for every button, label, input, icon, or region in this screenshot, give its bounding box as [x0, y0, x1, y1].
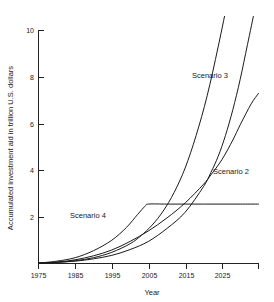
series-label-scenario-3: Scenario 3 [192, 71, 228, 80]
x-tick-label-1995: 1995 [105, 272, 121, 279]
series-label-scenario-2: Scenario 2 [213, 167, 249, 176]
x-axis-tick-labels: 1975 1985 1995 2005 2015 2025 [31, 272, 231, 279]
y-tick-label-10: 10 [26, 27, 34, 34]
x-tick-label-1975: 1975 [31, 272, 47, 279]
y-axis-ticks [39, 31, 45, 218]
chart-canvas: 10 8 6 4 2 1975 1985 1995 2005 2015 2025… [0, 0, 274, 302]
y-axis-title: Accumulated investment aid in trillion U… [6, 66, 15, 230]
x-axis-title: Year [144, 288, 160, 297]
series-path-scenario-3 [39, 0, 241, 263]
x-tick-label-2005: 2005 [142, 272, 158, 279]
y-tick-label-4: 4 [30, 167, 34, 174]
chart-figure: 10 8 6 4 2 1975 1985 1995 2005 2015 2025… [0, 0, 274, 302]
series-group [39, 0, 259, 263]
y-axis-tick-labels: 10 8 6 4 2 [26, 27, 34, 221]
series-path-scenario-2 [39, 0, 259, 263]
series-path-scenario-4 [39, 93, 259, 263]
y-tick-label-6: 6 [30, 121, 34, 128]
series-label-scenario-4: Scenario 4 [70, 211, 106, 220]
x-tick-label-1985: 1985 [68, 272, 84, 279]
y-tick-label-2: 2 [30, 214, 34, 221]
x-tick-label-2025: 2025 [215, 272, 231, 279]
x-tick-label-2015: 2015 [179, 272, 195, 279]
y-tick-label-8: 8 [30, 74, 34, 81]
x-axis-ticks [39, 264, 259, 270]
